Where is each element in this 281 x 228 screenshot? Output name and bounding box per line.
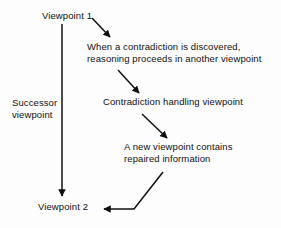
- edge-label-successor-viewpoint-line-1: Successor: [12, 97, 57, 109]
- flow-diagram: Viewpoint 1 Successor viewpoint When a c…: [0, 0, 281, 228]
- node-step-3: A new viewpoint contains repaired inform…: [124, 141, 233, 164]
- node-viewpoint-1-label: Viewpoint 1: [42, 10, 92, 22]
- node-step-3-line-2: repaired information: [124, 153, 233, 165]
- arrow-step2-to-step3: [142, 114, 167, 138]
- node-step-1-line-2: reasoning proceeds in another viewpoint: [87, 53, 261, 65]
- edge-label-successor-viewpoint: Successor viewpoint: [12, 97, 57, 121]
- arrow-step1-to-step2: [118, 70, 139, 93]
- node-step-3-line-1: A new viewpoint contains: [124, 141, 233, 153]
- arrow-step3-to-viewpoint2: [104, 172, 163, 209]
- node-viewpoint-2: Viewpoint 2: [38, 201, 88, 213]
- node-step-1-line-1: When a contradiction is discovered,: [87, 41, 261, 53]
- node-step-1: When a contradiction is discovered, reas…: [87, 41, 261, 64]
- node-step-2-line-1: Contradiction handling viewpoint: [103, 96, 243, 108]
- node-viewpoint-1: Viewpoint 1: [42, 10, 92, 22]
- node-step-2: Contradiction handling viewpoint: [103, 96, 243, 108]
- arrow-viewpoint1-to-step1: [92, 18, 110, 37]
- node-viewpoint-2-label: Viewpoint 2: [38, 201, 88, 213]
- edge-label-successor-viewpoint-line-2: viewpoint: [12, 109, 57, 121]
